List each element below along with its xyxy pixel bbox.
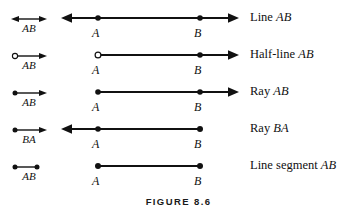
description-points: AB [321,158,336,172]
description-points: AB [298,47,313,61]
point-label-a: A [92,174,99,188]
diagram-line-segment-ab: A B [55,156,245,194]
figure-row-ray-ba: BA A B Ray BA [0,119,357,157]
point-label-a: A [92,137,99,151]
figure-illustration: AB A B Line AB [0,0,357,218]
line-ab-graphic [55,8,245,28]
line-segment-ab-graphic [55,156,245,176]
ray-ab-graphic [55,82,245,102]
diagram-line-ab: A B [55,8,245,46]
diagram-ray-ba: A B [55,119,245,157]
description-prefix: Ray [250,84,273,98]
description-ray-ba: Ray BA [250,121,289,136]
description-line-segment-ab: Line segment AB [250,158,336,173]
point-label-b: B [194,174,201,188]
notation-cell-line-ab: AB [6,8,52,46]
description-half-line-ab: Half-line AB [250,47,314,62]
figure-row-ray-ab: AB A B Ray AB [0,82,357,120]
point-label-a: A [92,63,99,77]
point-label-b: B [194,137,201,151]
point-label-a: A [92,26,99,40]
ray-ba-graphic [55,119,245,139]
description-prefix: Line [250,10,276,24]
point-label-b: B [194,63,201,77]
diagram-half-line-ab: A B [55,45,245,83]
figure-caption: FIGURE 8.6 [0,196,357,207]
figure-row-line-ab: AB A B Line AB [0,8,357,46]
notation-label: AB [6,170,52,183]
notation-cell-line-segment-ab: AB [6,156,52,194]
notation-label: AB [6,96,52,109]
notation-label: AB [6,59,52,72]
notation-cell-ray-ab: AB [6,82,52,120]
notation-label: BA [6,133,52,146]
figure-row-line-segment-ab: AB A B Line segment AB [0,156,357,194]
figure-row-half-line-ab: AB A B Half-line AB [0,45,357,83]
description-line-ab: Line AB [250,10,291,25]
diagram-ray-ab: A B [55,82,245,120]
description-points: BA [273,121,288,135]
description-prefix: Line segment [250,158,321,172]
description-prefix: Ray [250,121,273,135]
point-label-b: B [194,100,201,114]
description-points: AB [273,84,288,98]
notation-cell-ray-ba: BA [6,119,52,157]
half-line-ab-graphic [55,45,245,65]
description-ray-ab: Ray AB [250,84,289,99]
point-label-b: B [194,26,201,40]
description-points: AB [276,10,291,24]
description-prefix: Half-line [250,47,298,61]
notation-label: AB [6,22,52,35]
notation-cell-half-line-ab: AB [6,45,52,83]
point-label-a: A [92,100,99,114]
